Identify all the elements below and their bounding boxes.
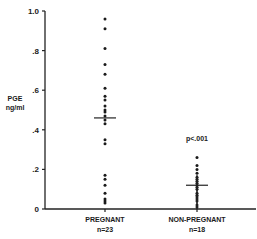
y-tick-label: 0: [35, 205, 40, 214]
data-point: [104, 110, 107, 113]
pge-dot-plot: 0.2.4.6.81.0PGEng/mlPREGNANTn=23NON-PREG…: [0, 0, 257, 239]
y-axis-label-unit: ng/ml: [6, 104, 25, 112]
y-tick-label: .6: [32, 86, 39, 95]
data-point: [104, 105, 107, 108]
y-tick-label: .2: [32, 165, 39, 174]
y-tick-label: .8: [32, 47, 39, 56]
data-point: [104, 184, 107, 187]
data-point: [104, 174, 107, 177]
data-point: [104, 47, 107, 50]
data-point: [104, 99, 107, 102]
data-point: [104, 63, 107, 66]
y-tick-label: .4: [32, 126, 39, 135]
data-point: [104, 192, 107, 195]
data-point: [104, 95, 107, 98]
y-axis-label: PGE: [8, 95, 23, 102]
sample-size-label: n=23: [97, 226, 113, 233]
category-label: NON-PREGNANT: [168, 216, 226, 223]
data-point: [104, 114, 107, 117]
data-point: [104, 142, 107, 145]
data-point: [104, 202, 107, 205]
data-point: [196, 156, 199, 159]
labels: 0.2.4.6.81.0PGEng/mlPREGNANTn=23NON-PREG…: [6, 7, 227, 233]
data-point: [104, 138, 107, 141]
data-point: [104, 122, 107, 125]
data-point: [104, 87, 107, 90]
data-point: [104, 17, 107, 20]
category-label: PREGNANT: [85, 216, 125, 223]
axes: [42, 11, 256, 212]
data-point: [196, 172, 199, 175]
y-tick-label: 1.0: [28, 7, 40, 16]
data-point: [104, 73, 107, 76]
data-point: [196, 168, 199, 171]
data-point: [104, 178, 107, 181]
data-points: [94, 17, 208, 209]
data-point: [104, 118, 107, 121]
sample-size-label: n=18: [189, 226, 205, 233]
data-point: [196, 164, 199, 167]
data-point: [104, 27, 107, 30]
p-value-annotation: p<.001: [186, 135, 208, 143]
